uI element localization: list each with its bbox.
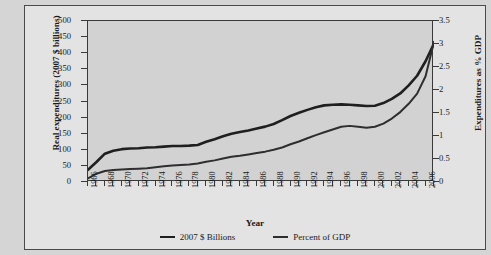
chart-legend: 2007 $ Billions Percent of GDP	[25, 232, 485, 242]
y-axis-left-tick-label: 500	[41, 15, 71, 25]
legend-swatch-dollars	[160, 236, 175, 238]
x-axis-tick-mark	[239, 181, 240, 186]
x-axis-tick-label: 1994	[326, 171, 335, 188]
y-axis-right-tick-label: 0	[439, 176, 469, 186]
y-axis-right-tick-mark	[433, 20, 439, 21]
x-axis-tick-mark	[138, 181, 139, 186]
y-axis-left-tick-mark	[81, 36, 87, 37]
series-lines	[88, 21, 434, 182]
x-axis-tick-mark	[104, 181, 105, 186]
y-axis-right-tick-label: 3.5	[439, 15, 469, 25]
y-axis-left-tick-label: 350	[41, 63, 71, 73]
legend-swatch-gdp	[273, 236, 288, 238]
x-axis-tick-mark	[374, 181, 375, 186]
x-axis-tick-label: 2000	[377, 171, 386, 188]
x-axis-tick-mark	[273, 181, 274, 186]
y-axis-left-tick-label: 150	[41, 128, 71, 138]
x-axis-tick-mark	[188, 181, 189, 186]
y-axis-right-tick-mark	[433, 89, 439, 90]
y-axis-left-tick-label: 50	[41, 160, 71, 170]
y-axis-left-tick-label: 400	[41, 47, 71, 57]
x-axis-tick-mark	[290, 181, 291, 186]
x-axis-tick-mark	[306, 181, 307, 186]
y-axis-left-tick-label: 200	[41, 112, 71, 122]
y-axis-right-title: Expenditures as % GDP	[473, 8, 483, 158]
x-axis-tick-label: 1976	[175, 171, 184, 188]
x-axis-tick-label: 1986	[259, 171, 268, 188]
series-line-gdp	[88, 42, 434, 179]
x-axis-tick-label: 1968	[107, 171, 116, 188]
y-axis-left-tick-mark	[81, 117, 87, 118]
y-axis-left-tick-label: 250	[41, 96, 71, 106]
series-line-dollars	[88, 44, 434, 170]
chart-canvas: Real expenditures (2007 $ billions) Expe…	[25, 6, 485, 249]
x-axis-tick-label: 1982	[225, 171, 234, 188]
y-axis-right-tick-mark	[433, 66, 439, 67]
x-axis-tick-mark	[391, 181, 392, 186]
x-axis-tick-label: 1974	[158, 171, 167, 188]
y-axis-left-tick-mark	[81, 68, 87, 69]
y-axis-left-tick-mark	[81, 165, 87, 166]
x-axis-tick-mark	[87, 181, 88, 186]
y-axis-right-tick-label: 1.5	[439, 107, 469, 117]
x-axis-tick-label: 1998	[360, 171, 369, 188]
y-axis-left-tick-mark	[81, 149, 87, 150]
y-axis-right-tick-mark	[433, 135, 439, 136]
x-axis-tick-label: 1990	[293, 171, 302, 188]
y-axis-left-tick-label: 300	[41, 79, 71, 89]
y-axis-right-tick-mark	[433, 158, 439, 159]
x-axis-tick-mark	[357, 181, 358, 186]
x-axis-tick-mark	[425, 181, 426, 186]
y-axis-left-tick-label: 0	[41, 176, 71, 186]
y-axis-right-tick-label: 3	[439, 38, 469, 48]
x-axis-tick-mark	[205, 181, 206, 186]
x-axis-tick-label: 2004	[411, 171, 420, 188]
legend-label-dollars: 2007 $ Billions	[180, 232, 236, 242]
x-axis-tick-mark	[121, 181, 122, 186]
x-axis-tick-label: 1980	[208, 171, 217, 188]
y-axis-left-tick-mark	[81, 52, 87, 53]
x-axis-tick-mark	[222, 181, 223, 186]
chart-figure: Real expenditures (2007 $ billions) Expe…	[24, 5, 486, 250]
legend-item-gdp: Percent of GDP	[273, 232, 350, 242]
y-axis-left-tick-mark	[81, 20, 87, 21]
x-axis-tick-mark	[340, 181, 341, 186]
y-axis-right-tick-mark	[433, 43, 439, 44]
y-axis-left-tick-label: 100	[41, 144, 71, 154]
x-axis-tick-label: 1992	[310, 171, 319, 188]
x-axis-tick-mark	[256, 181, 257, 186]
legend-item-dollars: 2007 $ Billions	[160, 232, 236, 242]
x-axis-tick-mark	[155, 181, 156, 186]
x-axis-tick-mark	[408, 181, 409, 186]
legend-label-gdp: Percent of GDP	[293, 232, 350, 242]
x-axis-tick-label: 1970	[124, 171, 133, 188]
y-axis-left-tick-mark	[81, 84, 87, 85]
y-axis-left-tick-mark	[81, 101, 87, 102]
x-axis-tick-label: 1978	[191, 171, 200, 188]
y-axis-left-tick-label: 450	[41, 31, 71, 41]
y-axis-right-tick-mark	[433, 112, 439, 113]
x-axis-title: Year	[25, 218, 485, 228]
x-axis-tick-label: 1996	[343, 171, 352, 188]
x-axis-tick-label: 1988	[276, 171, 285, 188]
x-axis-tick-label: 1966	[90, 171, 99, 188]
x-axis-tick-mark	[323, 181, 324, 186]
x-axis-tick-label: 2002	[394, 171, 403, 188]
x-axis-tick-label: 1972	[141, 171, 150, 188]
x-axis-tick-mark	[171, 181, 172, 186]
x-axis-tick-label: 2006	[428, 171, 437, 188]
figure-root: ing are h of t. Real expenditures (2007 …	[0, 0, 491, 255]
y-axis-right-tick-label: 0.5	[439, 153, 469, 163]
margin-caption-column: ing are h of t.	[0, 0, 22, 255]
y-axis-right-tick-label: 1	[439, 130, 469, 140]
y-axis-right-tick-label: 2	[439, 84, 469, 94]
x-axis-tick-label: 1984	[242, 171, 251, 188]
y-axis-left-tick-mark	[81, 133, 87, 134]
plot-area	[87, 20, 433, 181]
y-axis-right-tick-label: 2.5	[439, 61, 469, 71]
